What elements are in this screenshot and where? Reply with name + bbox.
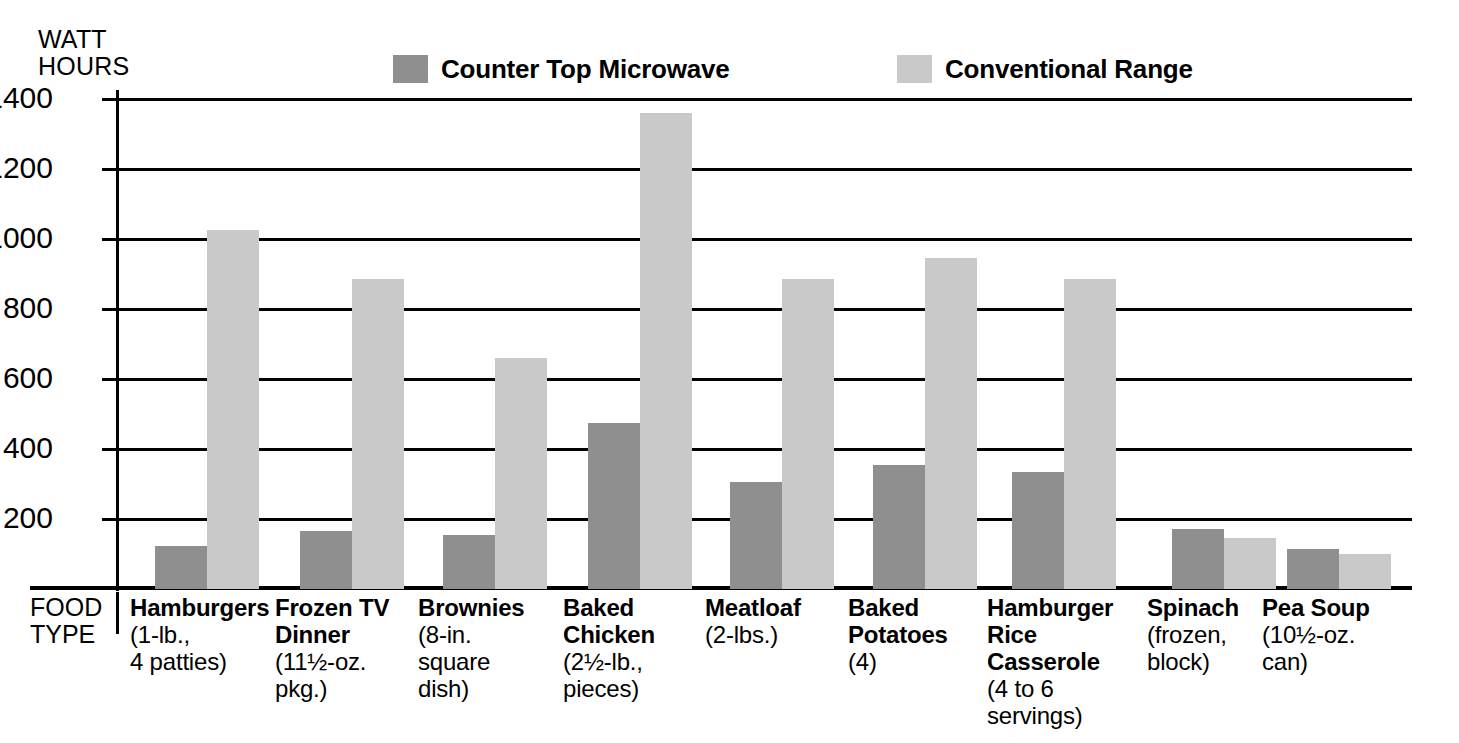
tick-stub-400	[102, 448, 119, 451]
y-tick-label-200: 200	[0, 503, 53, 533]
gridline-400	[119, 448, 1412, 451]
category-label-8: Pea Soup(10½-oz. can)	[1262, 594, 1412, 675]
bar-microwave-2[interactable]	[443, 535, 495, 589]
category-sublabel-8: (10½-oz. can)	[1262, 621, 1412, 675]
bar-microwave-0[interactable]	[155, 546, 207, 589]
plot-area: 200400600800100012001400	[119, 99, 1412, 589]
gridline-1000	[119, 238, 1412, 241]
category-name-8: Pea Soup	[1262, 594, 1412, 621]
category-label-1: Frozen TV Dinner(11½-oz. pkg.)	[275, 594, 423, 702]
bar-conventional-4[interactable]	[782, 279, 834, 589]
y-tick-label-1200: 1200	[0, 153, 53, 183]
gridline-600	[119, 378, 1412, 381]
category-label-4: Meatloaf(2-lbs.)	[705, 594, 843, 648]
category-name-1: Frozen TV Dinner	[275, 594, 423, 648]
y-tick-label-400: 400	[0, 433, 53, 463]
category-label-6: Hamburger Rice Casserole(4 to 6 servings…	[987, 594, 1142, 729]
bar-conventional-7[interactable]	[1224, 538, 1276, 589]
bar-conventional-8[interactable]	[1339, 554, 1391, 589]
category-label-5: Baked Potatoes(4)	[848, 594, 983, 675]
category-label-2: Brownies(8-in. square dish)	[418, 594, 558, 702]
x-axis-title: FOOD TYPE	[30, 594, 102, 648]
tick-stub-1000	[102, 238, 119, 241]
bar-conventional-5[interactable]	[925, 258, 977, 589]
legend-swatch-microwave	[393, 55, 428, 83]
bar-microwave-5[interactable]	[873, 465, 925, 589]
category-sublabel-6: (4 to 6 servings)	[987, 675, 1142, 729]
category-sublabel-2: (8-in. square dish)	[418, 621, 558, 702]
category-name-4: Meatloaf	[705, 594, 843, 621]
tick-stub-800	[102, 308, 119, 311]
bar-microwave-3[interactable]	[588, 423, 640, 589]
y-tick-label-1400: 1400	[0, 83, 53, 113]
bar-conventional-1[interactable]	[352, 279, 404, 589]
legend-label-conventional: Conventional Range	[945, 54, 1193, 85]
bar-conventional-6[interactable]	[1064, 279, 1116, 589]
category-label-band: FOOD TYPE Hamburgers(1-lb., 4 patties)Fr…	[0, 590, 1459, 743]
y-tick-label-800: 800	[0, 293, 53, 323]
bar-conventional-0[interactable]	[207, 230, 259, 589]
category-label-0: Hamburgers(1-lb., 4 patties)	[130, 594, 280, 675]
bar-microwave-8[interactable]	[1287, 549, 1339, 589]
legend-item-conventional-range[interactable]: Conventional Range	[897, 52, 1193, 86]
legend-label-microwave: Counter Top Microwave	[441, 54, 730, 85]
food-type-divider	[116, 592, 119, 634]
category-name-3: Baked Chicken	[563, 594, 701, 648]
bar-microwave-6[interactable]	[1012, 472, 1064, 589]
category-label-3: Baked Chicken(2½-lb., pieces)	[563, 594, 701, 702]
category-name-5: Baked Potatoes	[848, 594, 983, 648]
tick-stub-1200	[102, 168, 119, 171]
gridline-1400	[119, 98, 1412, 101]
tick-stub-1400	[102, 98, 119, 101]
legend-swatch-conventional	[897, 55, 932, 83]
gridline-800	[119, 308, 1412, 311]
tick-stub-200	[102, 518, 119, 521]
category-name-2: Brownies	[418, 594, 558, 621]
y-tick-label-1000: 1000	[0, 223, 53, 253]
category-sublabel-1: (11½-oz. pkg.)	[275, 648, 423, 702]
watt-hours-bar-chart: WATT HOURS Counter Top Microwave Convent…	[0, 0, 1459, 743]
category-sublabel-5: (4)	[848, 648, 983, 675]
category-sublabel-0: (1-lb., 4 patties)	[130, 621, 280, 675]
legend-item-counter-top-microwave[interactable]: Counter Top Microwave	[393, 52, 730, 86]
bar-microwave-1[interactable]	[300, 531, 352, 589]
bar-conventional-3[interactable]	[640, 113, 692, 589]
tick-stub-600	[102, 378, 119, 381]
gridline-1200	[119, 168, 1412, 171]
category-name-0: Hamburgers	[130, 594, 280, 621]
y-tick-label-600: 600	[0, 363, 53, 393]
category-sublabel-3: (2½-lb., pieces)	[563, 648, 701, 702]
category-sublabel-4: (2-lbs.)	[705, 621, 843, 648]
bar-microwave-4[interactable]	[730, 482, 782, 589]
category-name-6: Hamburger Rice Casserole	[987, 594, 1142, 675]
y-axis-title: WATT HOURS	[38, 26, 129, 80]
bar-microwave-7[interactable]	[1172, 529, 1224, 589]
bar-conventional-2[interactable]	[495, 358, 547, 589]
